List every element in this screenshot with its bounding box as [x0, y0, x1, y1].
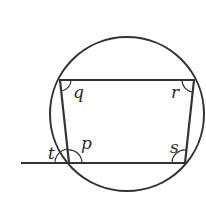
label-p: p — [81, 133, 92, 153]
label-t: t — [48, 143, 55, 163]
circle — [50, 37, 204, 191]
cyclic-quadrilateral-diagram: q r s p t — [0, 0, 206, 204]
angle-arc-q — [61, 80, 71, 91]
label-r: r — [171, 82, 180, 102]
label-s: s — [170, 137, 179, 157]
angle-arc-r — [182, 80, 193, 92]
label-q: q — [73, 82, 84, 102]
